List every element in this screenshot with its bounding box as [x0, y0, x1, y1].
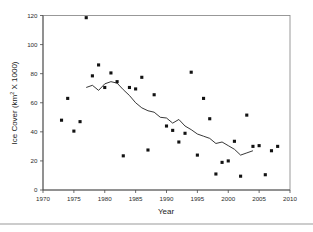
scatter-point: [146, 148, 149, 151]
scatter-point: [221, 161, 224, 164]
ice-cover-scatter-chart: 020406080100120 197019751980198519901995…: [0, 0, 313, 232]
scatter-point: [190, 71, 193, 74]
scatter-point: [153, 93, 156, 96]
scatter-point: [177, 140, 180, 143]
scatter-point: [140, 76, 143, 79]
y-axis-title-post: X 1000): [10, 61, 19, 92]
scatter-point: [245, 114, 248, 117]
x-tick-label: 2000: [221, 195, 235, 202]
scatter-point: [202, 97, 205, 100]
svg-text:Ice Cover (km2 X 1000): Ice Cover (km2 X 1000): [9, 61, 19, 144]
scatter-point: [122, 154, 125, 157]
y-axis-ticks: 020406080100120: [27, 12, 43, 194]
x-tick-label: 2010: [283, 195, 297, 202]
scatter-point: [85, 16, 88, 19]
x-tick-label: 1980: [98, 195, 112, 202]
x-tick-label: 1990: [160, 195, 174, 202]
scatter-point: [251, 145, 254, 148]
x-tick-label: 1975: [67, 195, 81, 202]
x-axis-ticks: 197019751980198519901995200020052010: [36, 190, 297, 202]
scatter-point: [60, 119, 63, 122]
scatter-point: [264, 173, 267, 176]
scatter-point: [97, 63, 100, 66]
y-tick-label: 0: [34, 186, 38, 193]
scatter-point: [276, 145, 279, 148]
scatter-point: [258, 144, 261, 147]
y-tick-label: 100: [27, 41, 38, 48]
y-tick-label: 80: [31, 70, 38, 77]
plot-frame: [43, 16, 290, 191]
y-tick-label: 40: [31, 128, 38, 135]
x-tick-label: 1970: [36, 195, 50, 202]
scatter-point: [72, 130, 75, 133]
scatter-point: [91, 74, 94, 77]
scatter-point: [227, 159, 230, 162]
running-mean-trend-line: [86, 82, 253, 155]
x-tick-label: 1995: [190, 195, 204, 202]
scatter-point: [171, 129, 174, 132]
scatter-point: [128, 86, 131, 89]
y-tick-label: 20: [31, 157, 38, 164]
y-axis-title-pre: Ice Cover (km: [10, 94, 19, 144]
x-tick-label: 1985: [129, 195, 143, 202]
scatter-point: [208, 117, 211, 120]
scatter-point: [165, 124, 168, 127]
scatter-point: [116, 80, 119, 83]
x-axis-title: Year: [158, 207, 175, 216]
scatter-point: [134, 87, 137, 90]
scatter-point: [183, 132, 186, 135]
scatter-point: [79, 120, 82, 123]
scatter-point: [196, 154, 199, 157]
y-tick-label: 60: [31, 99, 38, 106]
scatter-point: [214, 172, 217, 175]
scatter-point: [233, 140, 236, 143]
scatter-point: [103, 86, 106, 89]
scatter-point: [109, 71, 112, 74]
y-axis-title: Ice Cover (km2 X 1000): [9, 61, 19, 144]
y-tick-label: 120: [27, 12, 38, 19]
scatter-point: [270, 149, 273, 152]
scatter-point: [66, 97, 69, 100]
scatter-point: [239, 175, 242, 178]
x-tick-label: 2005: [252, 195, 266, 202]
